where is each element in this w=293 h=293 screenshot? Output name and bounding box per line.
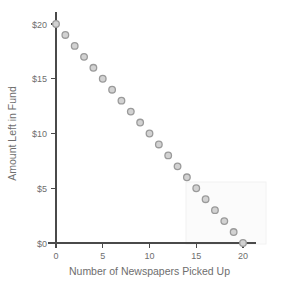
data-point bbox=[137, 119, 144, 126]
data-point bbox=[202, 196, 209, 203]
data-point bbox=[146, 130, 153, 137]
data-point bbox=[118, 97, 125, 104]
data-point-series bbox=[53, 21, 247, 247]
x-tick-label: 5 bbox=[100, 251, 105, 261]
data-point bbox=[71, 43, 78, 50]
data-point bbox=[184, 174, 191, 181]
data-point bbox=[128, 108, 135, 115]
data-point bbox=[212, 207, 219, 214]
x-tick-label: 20 bbox=[238, 251, 248, 261]
x-tick-label: 15 bbox=[191, 251, 201, 261]
data-point bbox=[109, 86, 116, 93]
data-point bbox=[221, 218, 228, 225]
data-point bbox=[230, 229, 237, 236]
y-tick-label: $5 bbox=[37, 184, 47, 194]
y-tick-label: $15 bbox=[32, 74, 47, 84]
data-point bbox=[193, 185, 200, 192]
scatter-chart-figure: 05101520 $0$5$10$15$20 Number of Newspap… bbox=[0, 0, 293, 293]
data-point bbox=[240, 240, 247, 247]
data-point bbox=[156, 141, 163, 148]
y-tick-label: $20 bbox=[32, 20, 47, 30]
y-tick-label: $0 bbox=[37, 239, 47, 249]
x-tick-label: 10 bbox=[144, 251, 154, 261]
data-point bbox=[165, 152, 172, 159]
x-tick-label: 0 bbox=[53, 251, 58, 261]
x-axis-ticks: 05101520 bbox=[53, 243, 248, 261]
data-point bbox=[90, 65, 97, 72]
data-point bbox=[174, 163, 181, 170]
data-point bbox=[81, 54, 88, 61]
data-point bbox=[62, 32, 69, 39]
x-axis-title: Number of Newspapers Picked Up bbox=[69, 265, 230, 277]
y-tick-label: $10 bbox=[32, 129, 47, 139]
data-point bbox=[53, 21, 60, 28]
data-point bbox=[99, 75, 106, 82]
chart-canvas: 05101520 $0$5$10$15$20 Number of Newspap… bbox=[0, 0, 293, 293]
y-axis-title: Amount Left in Fund bbox=[6, 86, 18, 181]
y-axis-ticks: $0$5$10$15$20 bbox=[32, 20, 56, 249]
